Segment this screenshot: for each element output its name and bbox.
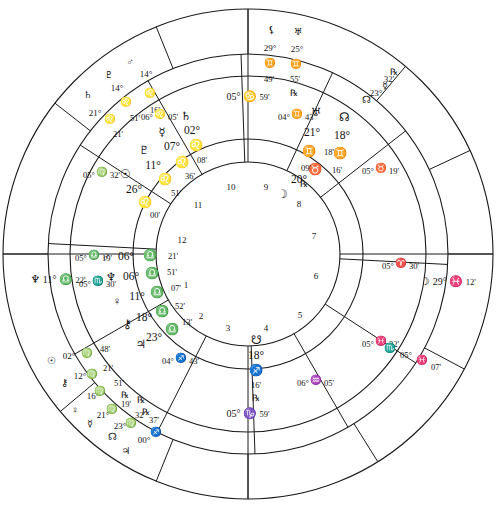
outer-jupiter-icon: ♃ — [122, 447, 131, 457]
mc-degree: 05° — [226, 91, 240, 102]
inner-mercury-sign-icon: ♌ — [175, 157, 189, 169]
asc-degree: 11° — [43, 274, 57, 285]
inner-neptune-sign-icon: ♎ — [145, 268, 159, 280]
inner-south-node-sign-icon: ♐ — [249, 365, 263, 377]
outer-north-node-outer-retrograde-icon: ℞ — [390, 68, 398, 77]
inner-uranus-degree: 21° — [304, 127, 320, 139]
cusp-tick-5 — [388, 131, 405, 145]
ascendant-marker-sign-icon: ♓ — [416, 356, 428, 366]
cusp-tick-4 — [323, 73, 332, 93]
inner-chiron-degree: 18° — [136, 312, 152, 324]
cusp-11-minute: 05' — [168, 113, 178, 122]
inner-saturn-icon: ♄ — [181, 111, 191, 123]
inner-mercury-degree: 07° — [164, 141, 180, 153]
inner-neptune-degree: 06° — [123, 271, 139, 283]
cusp-5-sign-icon: ♐ — [175, 354, 187, 364]
inner-mars-minute: 21' — [168, 252, 178, 261]
inner-north-node-minute: 16' — [332, 166, 342, 175]
house-cusp-spoke-8 — [294, 334, 337, 408]
inner-venus-minute: 07' — [171, 284, 181, 293]
outer-chiron-minute: 21' — [103, 364, 113, 373]
outer-venus-minute: 51' — [114, 379, 124, 388]
house-number-2: 2 — [199, 312, 204, 321]
house-number-3: 3 — [226, 324, 231, 333]
outer-mars-degree: 14° — [140, 70, 153, 79]
outer-chiron-sign-icon: ♍ — [86, 370, 98, 380]
inner-jupiter-degree: 23° — [146, 332, 162, 344]
outer-mercury-retrograde-icon: ℞ — [137, 396, 145, 405]
house-number-9: 9 — [264, 183, 269, 192]
inner-jupiter-sign-icon: ♎ — [165, 324, 179, 336]
inner-pluto-icon: ♇ — [139, 145, 149, 157]
cusp-tick-0 — [48, 244, 70, 245]
cusp-4-sign-icon: ♏ — [92, 277, 104, 287]
inner-pluto-degree: 11° — [145, 160, 161, 172]
inner-south-node-minute: 16' — [251, 381, 261, 390]
outer-uranus-retrograde-icon: ℞ — [290, 89, 298, 98]
outer-venus-sign-icon: ♍ — [94, 387, 106, 397]
dsc-minute: 12' — [466, 277, 476, 287]
dsc-degree: 29° — [433, 276, 447, 287]
outer-jupiter-degree: 00° — [138, 436, 151, 445]
inner-sun-sign-icon: ♌ — [138, 197, 152, 209]
ascendant-label: ♆ 11° ♎ 22' — [30, 274, 85, 285]
outer-north-node-sign-icon: ♍ — [125, 419, 137, 429]
cusp-9-sign-icon: ♉ — [375, 164, 387, 174]
outer-north-node-icon: ☊ — [108, 433, 117, 443]
house-number-7: 7 — [312, 232, 317, 241]
house-number-10: 10 — [227, 183, 236, 192]
outer-division-9 — [156, 27, 173, 69]
outer-sun-minute: 48' — [100, 345, 110, 354]
outer-lilith-minute: 49' — [264, 75, 274, 84]
outer-venus-icon: ♀ — [71, 406, 78, 416]
cusp-tick-1 — [80, 145, 98, 157]
capricorn-icon: ♑ — [243, 407, 257, 419]
outer-chiron-degree: 12° — [74, 372, 87, 381]
ascendant-marker-icon: ♏ — [384, 344, 396, 354]
inner-mars-degree: 06° — [118, 251, 134, 263]
outer-division-8 — [55, 103, 90, 131]
cancer-icon: ♋ — [243, 90, 257, 102]
cusp-6-sign-icon: ♒ — [310, 376, 322, 386]
outer-sun-sign-icon: ♍ — [81, 349, 93, 359]
pisces-icon: ♓ — [449, 275, 463, 287]
inner-saturn-degree: 02° — [184, 125, 200, 137]
cusp-10-degree: 04° — [278, 113, 290, 122]
inner-venus-degree: 11° — [129, 291, 145, 303]
outer-pluto-icon: ♇ — [105, 71, 114, 81]
house-number-6: 6 — [314, 272, 319, 281]
outer-north-node-outer-icon: ☊ — [362, 96, 371, 106]
inner-sun-minute: 00' — [150, 211, 160, 220]
outer-division-11 — [429, 150, 470, 169]
cusp-2-minute: 32' — [110, 171, 120, 180]
cusp-9-minute: 19' — [389, 167, 399, 176]
cusp-10-sign-icon: ♊ — [291, 110, 303, 120]
outer-mercury-sign-icon: ♍ — [106, 405, 118, 415]
inner-south-node-icon: ☋ — [251, 335, 262, 347]
ascendant-marker-degree: 05° — [400, 351, 412, 360]
outer-uranus-sign-icon: ♊ — [290, 60, 302, 70]
inner-north-node-icon: ☊ — [339, 112, 350, 124]
cusp-3-degree: 05° — [75, 254, 87, 263]
cusp-8-sign-icon: ♈ — [395, 259, 407, 269]
outer-division-5 — [156, 439, 173, 481]
cusp-11-degree: 06° — [141, 113, 153, 122]
inner-neptune-minute: 51' — [167, 268, 177, 277]
outer-pluto-degree: 14° — [111, 84, 124, 93]
mc-minute: 59' — [259, 92, 269, 102]
house-number-4: 4 — [264, 324, 269, 333]
inner-mars-sign-icon: ♎ — [143, 250, 157, 262]
cusp-5-degree: 04° — [162, 357, 174, 366]
ascendant-marker-minute: 07' — [431, 363, 441, 372]
astrology-chart-wheel: 05° ♋ 59' 05° ♑ 59' ♆ 11° ♎ 22' ☽ 29° ♓ … — [0, 0, 497, 509]
moon-icon: ☽ — [420, 275, 430, 287]
outer-pluto-minute: 51' — [130, 114, 140, 123]
inner-jupiter-icon: ♃ — [136, 339, 146, 351]
midheaven-label: 05° ♋ 59' — [226, 91, 269, 102]
outer-saturn-icon: ♄ — [84, 91, 93, 101]
inner-mercury-minute: 36' — [185, 172, 195, 181]
outer-north-node-outer-degree: 23° — [370, 89, 383, 98]
inner-saturn-minute: 08' — [197, 156, 207, 165]
imum-coeli-label: 05° ♑ 59' — [226, 408, 269, 419]
outer-lilith-degree: 29° — [264, 44, 277, 53]
